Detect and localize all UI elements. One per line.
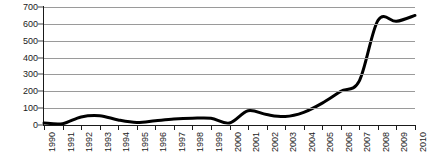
- y-axis-tick-label: 400: [23, 53, 38, 62]
- x-axis-tick: [44, 125, 45, 130]
- gridline-400: [44, 58, 415, 59]
- y-axis-tick-label: 200: [23, 87, 38, 96]
- x-axis-tick: [81, 125, 82, 130]
- y-axis-tick: [38, 57, 43, 58]
- x-axis-tick-label: 1990: [48, 132, 57, 152]
- x-axis-tick-label: 2003: [289, 132, 298, 152]
- x-axis-tick: [118, 125, 119, 130]
- x-axis-tick: [322, 125, 323, 130]
- x-axis-tick: [359, 125, 360, 130]
- x-axis-tick: [248, 125, 249, 130]
- x-axis-tick: [155, 125, 156, 130]
- x-axis-tick-label: 2002: [271, 132, 280, 152]
- x-axis-tick: [304, 125, 305, 130]
- x-axis-tick-label: 2000: [234, 132, 243, 152]
- y-axis-tick-label: 300: [23, 70, 38, 79]
- gridline-500: [44, 41, 415, 42]
- y-axis-tick-label: 700: [23, 3, 38, 12]
- gridline-200: [44, 91, 415, 92]
- x-axis-tick: [174, 125, 175, 130]
- x-axis-tick-label: 1991: [67, 132, 76, 152]
- x-axis-tick-label: 2005: [326, 132, 335, 152]
- y-axis-tick: [38, 125, 43, 126]
- y-axis: 0100200300400500600700: [0, 0, 38, 165]
- x-axis-tick-label: 2007: [363, 132, 372, 152]
- gridline-300: [44, 74, 415, 75]
- x-axis-tick: [63, 125, 64, 130]
- x-axis-tick-label: 1994: [122, 132, 131, 152]
- y-axis-tick: [38, 91, 43, 92]
- x-axis-tick-label: 2009: [400, 132, 409, 152]
- gridline-600: [44, 24, 415, 25]
- x-axis-tick-label: 1996: [159, 132, 168, 152]
- x-axis-tick-label: 2006: [345, 132, 354, 152]
- x-axis-tick-label: 1998: [196, 132, 205, 152]
- x-axis-tick-label: 2004: [308, 132, 317, 152]
- x-axis-tick: [230, 125, 231, 130]
- x-axis-tick: [415, 125, 416, 130]
- x-axis: 1990199119921993199419951996199719981999…: [44, 125, 415, 165]
- y-axis-tick: [38, 40, 43, 41]
- x-axis-tick-label: 1992: [85, 132, 94, 152]
- y-axis-tick-label: 500: [23, 36, 38, 45]
- y-axis-tick-label: 100: [23, 104, 38, 113]
- x-axis-tick: [211, 125, 212, 130]
- y-axis-tick-label: 600: [23, 19, 38, 28]
- x-axis-tick: [137, 125, 138, 130]
- y-axis-tick: [38, 23, 43, 24]
- plot-area: [44, 7, 415, 125]
- x-axis-tick: [285, 125, 286, 130]
- x-axis-tick-label: 1993: [104, 132, 113, 152]
- x-axis-tick: [378, 125, 379, 130]
- x-axis-tick-label: 1995: [141, 132, 150, 152]
- y-axis-tick: [38, 7, 43, 8]
- y-axis-tick: [38, 108, 43, 109]
- gridline-700: [44, 7, 415, 8]
- x-axis-tick-label: 2008: [382, 132, 391, 152]
- gridline-100: [44, 108, 415, 109]
- x-axis-tick: [341, 125, 342, 130]
- y-axis-tick: [38, 74, 43, 75]
- x-axis-tick-label: 2010: [419, 132, 428, 152]
- x-axis-tick: [100, 125, 101, 130]
- x-axis-tick: [192, 125, 193, 130]
- x-axis-tick-label: 2001: [252, 132, 261, 152]
- x-axis-tick: [396, 125, 397, 130]
- x-axis-tick-label: 1997: [178, 132, 187, 152]
- x-axis-tick: [267, 125, 268, 130]
- x-axis-tick-label: 1999: [215, 132, 224, 152]
